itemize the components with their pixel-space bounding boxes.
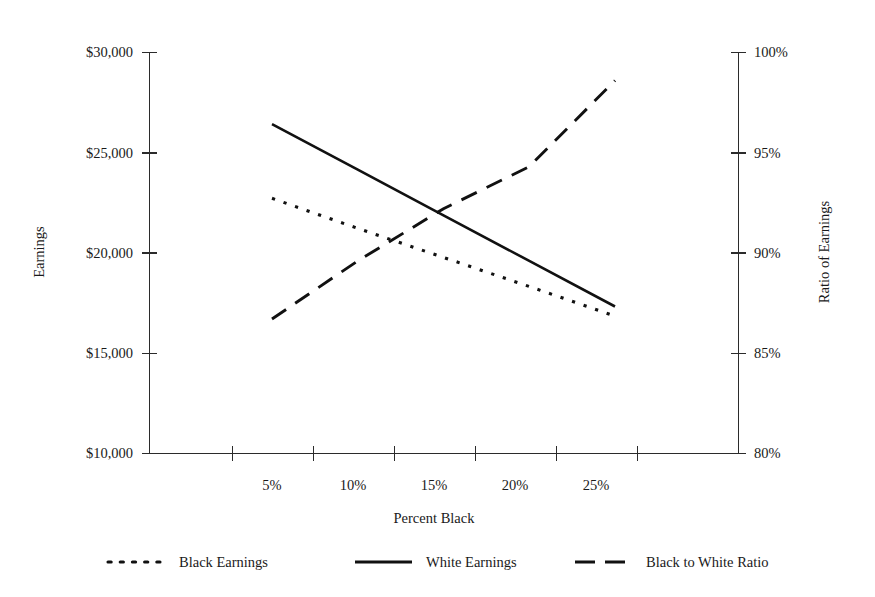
bottom-axis-tick-labels: 5% 10% 15% 20% 25% — [262, 477, 609, 493]
legend-label: Black Earnings — [179, 554, 268, 570]
right-tick-label: 85% — [754, 345, 781, 361]
left-tick-label: $30,000 — [86, 44, 133, 60]
left-axis-tick-labels: $30,000 $25,000 $20,000 $15,000 $10,000 — [86, 44, 133, 461]
left-tick-label: $10,000 — [86, 445, 133, 461]
bottom-tick-label: 5% — [262, 477, 281, 493]
series-lines — [272, 81, 615, 319]
y2-axis-title: Ratio of Earnings — [816, 201, 832, 304]
right-tick-label: 90% — [754, 245, 781, 261]
chart-legend: Black Earnings White Earnings Black to W… — [108, 554, 769, 570]
bottom-tick-label: 20% — [502, 477, 529, 493]
legend-item-white-earnings[interactable]: White Earnings — [355, 554, 517, 570]
right-tick-label: 95% — [754, 145, 781, 161]
left-tick-label: $15,000 — [86, 345, 133, 361]
chart-figure: $30,000 $25,000 $20,000 $15,000 $10,000 … — [0, 0, 875, 597]
left-tick-label: $20,000 — [86, 245, 133, 261]
axis-lines — [150, 52, 739, 454]
legend-item-black-to-white-ratio[interactable]: Black to White Ratio — [575, 554, 769, 570]
legend-label: Black to White Ratio — [646, 554, 769, 570]
bottom-tick-label: 10% — [340, 477, 367, 493]
right-tick-label: 100% — [754, 44, 788, 60]
right-tick-label: 80% — [754, 445, 781, 461]
series-line-white-earnings — [272, 124, 615, 306]
legend-item-black-earnings[interactable]: Black Earnings — [108, 554, 268, 570]
right-axis-tick-labels: 100% 95% 90% 85% 80% — [754, 44, 788, 461]
left-tick-label: $25,000 — [86, 145, 133, 161]
bottom-tick-label: 15% — [421, 477, 448, 493]
bottom-tick-label: 25% — [583, 477, 610, 493]
legend-label: White Earnings — [426, 554, 517, 570]
line-chart: $30,000 $25,000 $20,000 $15,000 $10,000 … — [0, 0, 875, 597]
x-axis-title: Percent Black — [394, 510, 476, 526]
series-line-black-to-white-ratio — [272, 81, 615, 319]
y-axis-title: Earnings — [31, 226, 47, 278]
